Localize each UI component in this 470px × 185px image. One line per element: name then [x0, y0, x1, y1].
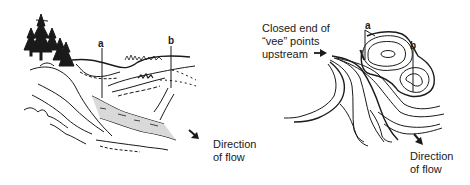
contour-map [284, 32, 444, 146]
upstream-arrow-icon [314, 49, 327, 57]
right-flow-label-line2: of flow [410, 163, 442, 175]
tree-cluster-icon [24, 14, 74, 66]
river-water [92, 96, 176, 140]
left-flow-label-line2: of flow [213, 151, 245, 163]
point-a-label: a [98, 38, 104, 49]
figure-canvas: a b Direction of flow Closed end of “vee… [0, 0, 470, 185]
point-b-label: b [168, 35, 174, 46]
contour-point-b-label: b [410, 40, 416, 51]
right-flow-label-line1: Direction [410, 150, 453, 162]
flow-arrow-icon [189, 130, 199, 139]
annotation-line2: “vee” points [262, 35, 319, 47]
contour-flow-arrow-icon [414, 134, 423, 145]
annotation-line3: upstream [262, 48, 308, 60]
left-flow-label-line1: Direction [213, 138, 256, 150]
annotation-line1: Closed end of [262, 22, 330, 34]
contour-point-a-label: a [365, 20, 371, 31]
